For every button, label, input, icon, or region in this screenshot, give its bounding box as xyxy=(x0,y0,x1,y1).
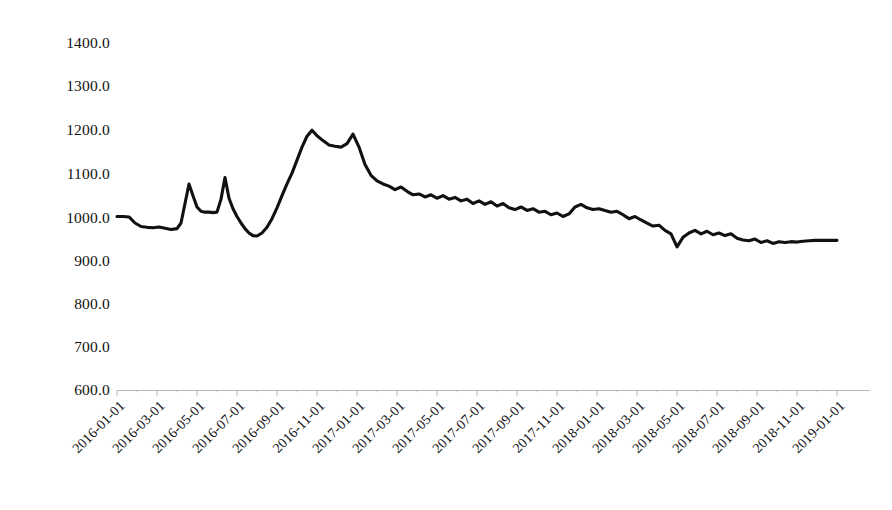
y-tick-label: 900.0 xyxy=(74,252,110,270)
y-tick-label: 1200.0 xyxy=(66,121,110,139)
y-tick-label: 1300.0 xyxy=(66,77,110,95)
y-tick-label: 800.0 xyxy=(74,295,110,313)
y-tick-label: 600.0 xyxy=(74,381,110,399)
axis-ticks xyxy=(117,391,837,396)
y-tick-label: 700.0 xyxy=(74,338,110,356)
y-tick-label: 1000.0 xyxy=(66,209,110,227)
x-tick-label: 2016-07-01 xyxy=(25,398,248,510)
y-tick-label: 1400.0 xyxy=(66,34,110,52)
y-tick-label: 1100.0 xyxy=(67,165,110,183)
line-chart: 1400.0 1300.0 1200.0 1100.0 1000.0 900.0… xyxy=(0,0,892,510)
series-line xyxy=(117,130,837,247)
